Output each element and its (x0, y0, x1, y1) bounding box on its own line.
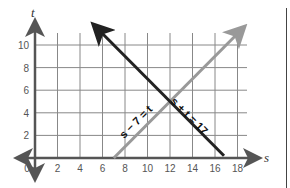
x-tick-label: 16 (209, 163, 221, 174)
y-tick-label: 4 (23, 108, 29, 119)
label-s-plus-t-equals-17: s + t = 17 (169, 95, 211, 137)
x-tick-label: 12 (164, 163, 176, 174)
line-s-minus-7-equals-t (114, 28, 243, 158)
x-tick-labels: 024681012141618 (24, 163, 243, 174)
y-tick-label: 8 (23, 63, 29, 74)
x-tick-label: 10 (142, 163, 154, 174)
y-tick-label: 2 (23, 130, 29, 141)
grid-lines (35, 33, 247, 158)
x-tick-label: 18 (232, 163, 244, 174)
x-tick-label: 2 (55, 163, 61, 174)
x-tick-label: 4 (77, 163, 83, 174)
coordinate-graph: 024681012141618 246810 s t s − 7 = t s +… (0, 0, 290, 188)
y-tick-labels: 246810 (18, 40, 30, 141)
y-axis-label: t (31, 5, 35, 20)
x-tick-label: 6 (100, 163, 106, 174)
x-tick-label: 8 (122, 163, 128, 174)
x-tick-label: 0 (24, 163, 30, 174)
x-tick-label: 14 (187, 163, 199, 174)
x-axis-label: s (264, 150, 269, 165)
y-tick-label: 6 (23, 85, 29, 96)
y-tick-label: 10 (18, 40, 30, 51)
right-border-line (286, 8, 287, 188)
